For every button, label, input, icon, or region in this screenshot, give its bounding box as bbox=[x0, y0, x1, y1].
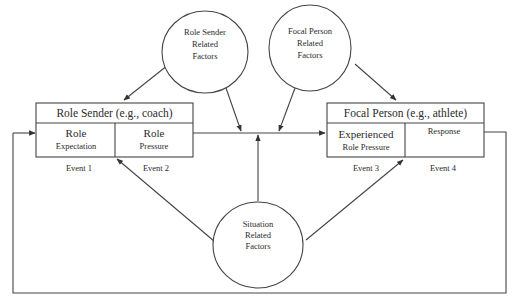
role-sender-title: Role Sender (e.g., coach) bbox=[56, 107, 172, 120]
event-1-label: Event 1 bbox=[66, 163, 92, 173]
role-sender-factors-node: Role Sender Related Factors bbox=[162, 11, 248, 93]
event-4-label: Event 4 bbox=[430, 163, 457, 173]
focal-person-factors-node: Focal Person Related Factors bbox=[269, 5, 351, 91]
experienced-pressure-line-1: Experienced bbox=[339, 128, 394, 140]
response-label: Response bbox=[428, 126, 461, 136]
fp-factors-line-1: Focal Person bbox=[288, 26, 333, 36]
role-expectation-line-2: Expectation bbox=[56, 141, 97, 151]
rs-factors-to-role-sender-arrow bbox=[124, 65, 168, 100]
event-3-label: Event 3 bbox=[353, 163, 379, 173]
event-2-label: Event 2 bbox=[143, 163, 169, 173]
role-episode-diagram: Role Sender Related Factors Focal Person… bbox=[0, 0, 516, 305]
fp-factors-to-focal-person-arrow bbox=[355, 64, 396, 100]
rs-factors-to-line-arrow bbox=[226, 88, 241, 131]
role-pressure-line-2: Pressure bbox=[140, 141, 169, 151]
situation-line-3: Factors bbox=[245, 241, 270, 251]
experienced-pressure-line-2: Role Pressure bbox=[343, 142, 390, 152]
fp-factors-to-line-arrow bbox=[279, 88, 295, 131]
situation-factors-node: Situation Related Factors bbox=[213, 202, 303, 288]
focal-person-box: Focal Person (e.g., athlete) Experienced… bbox=[327, 103, 484, 157]
rs-factors-line-2: Related bbox=[192, 39, 219, 49]
fp-factors-line-2: Related bbox=[297, 38, 324, 48]
role-expectation-line-1: Role bbox=[66, 127, 87, 139]
situation-line-1: Situation bbox=[243, 219, 274, 229]
focal-person-title: Focal Person (e.g., athlete) bbox=[344, 107, 467, 120]
role-sender-box: Role Sender (e.g., coach) Role Expectati… bbox=[36, 103, 193, 157]
rs-factors-line-1: Role Sender bbox=[184, 27, 226, 37]
rs-factors-line-3: Factors bbox=[192, 51, 217, 61]
situation-line-2: Related bbox=[245, 230, 272, 240]
role-pressure-line-1: Role bbox=[144, 127, 165, 139]
fp-factors-line-3: Factors bbox=[297, 50, 322, 60]
